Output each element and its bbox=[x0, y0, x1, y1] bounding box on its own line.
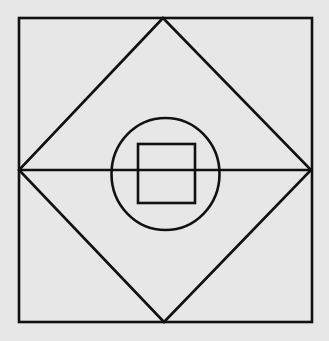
inner-square bbox=[138, 144, 195, 203]
center-circle bbox=[112, 118, 220, 230]
geometric-figure bbox=[0, 0, 329, 341]
diagram-canvas bbox=[0, 0, 329, 341]
